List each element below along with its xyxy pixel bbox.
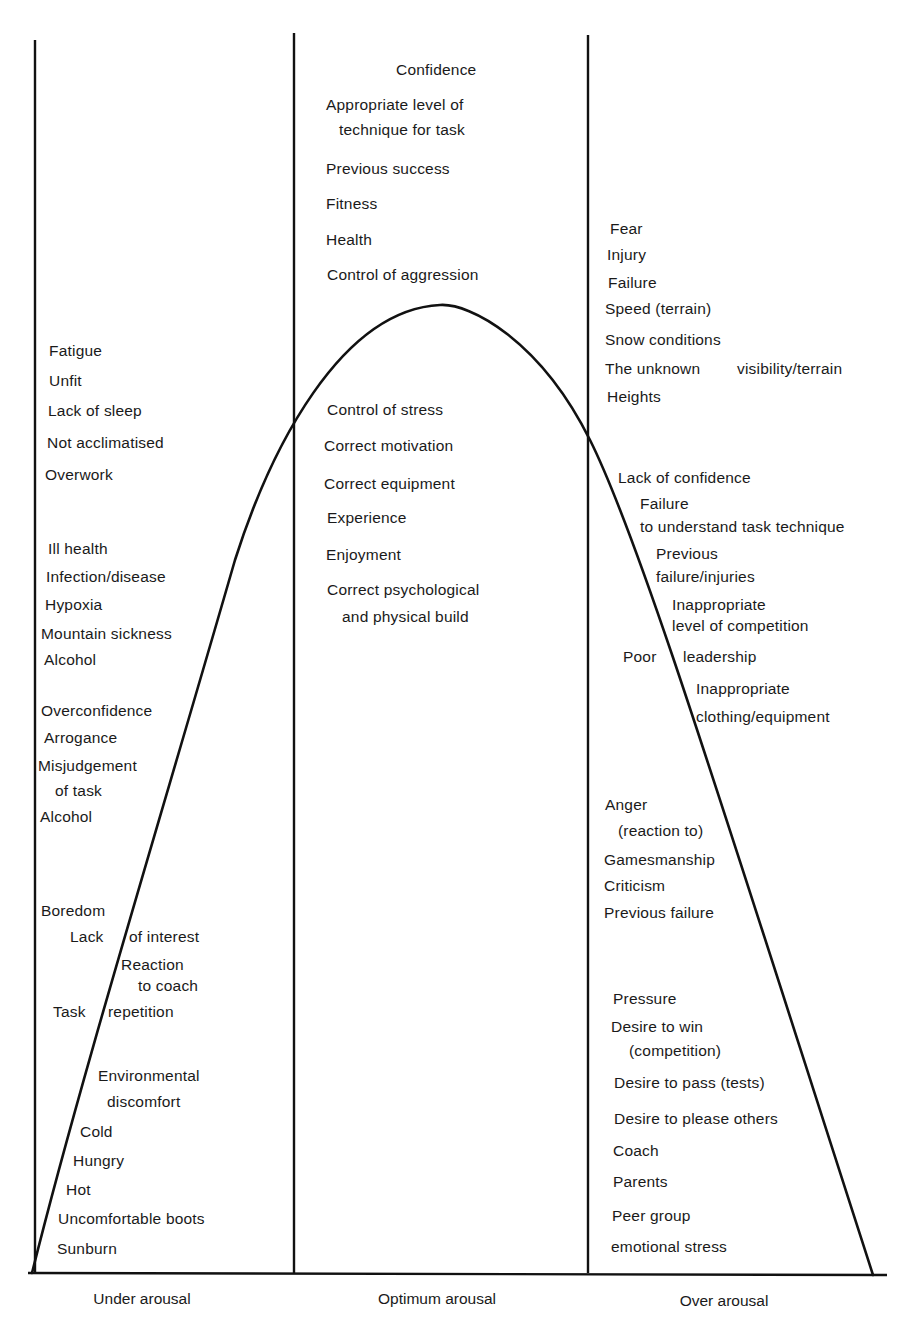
over-arousal-factor: Failure <box>640 495 689 513</box>
arousal-performance-diagram: FatigueUnfitLack of sleepNot acclimatise… <box>0 0 900 1321</box>
over-arousal-factor: Fear <box>610 220 643 238</box>
axis-label-optimum: Optimum arousal <box>378 1290 496 1308</box>
optimum-arousal-factor: Enjoyment <box>326 546 401 564</box>
over-arousal-factor: Lack of confidence <box>618 469 751 487</box>
under-arousal-factor: Arrogance <box>44 729 117 747</box>
under-arousal-factor: Boredom <box>41 902 105 920</box>
over-arousal-factor: Gamesmanship <box>604 851 715 869</box>
under-arousal-factor: Alcohol <box>40 808 92 826</box>
under-arousal-factor: Reaction <box>121 956 184 974</box>
over-arousal-factor: Inappropriate <box>696 680 790 698</box>
under-arousal-factor: discomfort <box>107 1093 181 1111</box>
under-arousal-factor: Hungry <box>73 1152 124 1170</box>
baseline-axis <box>28 1273 887 1275</box>
over-arousal-factor: Parents <box>613 1173 668 1191</box>
over-arousal-factor: Failure <box>608 274 657 292</box>
over-arousal-factor: Coach <box>613 1142 659 1160</box>
under-arousal-factor: Fatigue <box>49 342 102 360</box>
over-arousal-factor: leadership <box>683 648 757 666</box>
optimum-arousal-factor: Health <box>326 231 372 249</box>
optimum-arousal-factor: Correct motivation <box>324 437 453 455</box>
over-arousal-factor: Previous <box>656 545 718 563</box>
over-arousal-factor: Criticism <box>604 877 665 895</box>
over-arousal-factor: Previous failure <box>604 904 714 922</box>
under-arousal-factor: Misjudgement <box>38 757 137 775</box>
under-arousal-factor: Lack <box>70 928 104 946</box>
optimum-arousal-factor: technique for task <box>339 121 465 139</box>
over-arousal-factor: (reaction to) <box>618 822 703 840</box>
over-arousal-factor: Desire to win <box>611 1018 703 1036</box>
optimum-arousal-factor: Control of aggression <box>327 266 479 284</box>
under-arousal-factor: Hypoxia <box>45 596 102 614</box>
over-arousal-factor: Injury <box>607 246 646 264</box>
under-arousal-factor: Mountain sickness <box>41 625 172 643</box>
under-arousal-factor: Not acclimatised <box>47 434 164 452</box>
optimum-arousal-factor: Confidence <box>396 61 476 79</box>
over-arousal-factor: failure/injuries <box>656 568 755 586</box>
optimum-arousal-factor: Appropriate level of <box>326 96 464 114</box>
under-arousal-factor: Cold <box>80 1123 113 1141</box>
under-arousal-factor: Sunburn <box>57 1240 117 1258</box>
over-arousal-factor: to understand task technique <box>640 518 845 536</box>
over-arousal-factor: Inappropriate <box>672 596 766 614</box>
under-arousal-factor: Environmental <box>98 1067 200 1085</box>
over-arousal-factor: Pressure <box>613 990 677 1008</box>
under-arousal-factor: Lack of sleep <box>48 402 142 420</box>
over-arousal-factor: Snow conditions <box>605 331 721 349</box>
under-arousal-factor: of task <box>55 782 102 800</box>
optimum-arousal-factor: and physical build <box>342 608 469 626</box>
over-arousal-factor: Desire to pass (tests) <box>614 1074 765 1092</box>
optimum-arousal-factor: Fitness <box>326 195 377 213</box>
over-arousal-factor: clothing/equipment <box>696 708 830 726</box>
over-arousal-factor: emotional stress <box>611 1238 727 1256</box>
under-arousal-factor: Alcohol <box>44 651 96 669</box>
optimum-arousal-factor: Previous success <box>326 160 450 178</box>
over-arousal-factor: Peer group <box>612 1207 691 1225</box>
over-arousal-factor: Heights <box>607 388 661 406</box>
over-arousal-factor: Desire to please others <box>614 1110 778 1128</box>
under-arousal-factor: Ill health <box>48 540 108 558</box>
under-arousal-factor: Uncomfortable boots <box>58 1210 205 1228</box>
under-arousal-factor: Infection/disease <box>46 568 166 586</box>
over-arousal-factor: (competition) <box>629 1042 721 1060</box>
over-arousal-factor: The unknown <box>605 360 700 378</box>
optimum-arousal-factor: Correct equipment <box>324 475 455 493</box>
axis-label-over: Over arousal <box>680 1292 769 1310</box>
under-arousal-factor: to coach <box>138 977 198 995</box>
under-arousal-factor: Unfit <box>49 372 82 390</box>
under-arousal-factor: Overwork <box>45 466 113 484</box>
under-arousal-factor: Overconfidence <box>41 702 152 720</box>
optimum-arousal-factor: Control of stress <box>327 401 443 419</box>
over-arousal-factor: Anger <box>605 796 647 814</box>
optimum-arousal-factor: Correct psychological <box>327 581 479 599</box>
optimum-arousal-factor: Experience <box>327 509 407 527</box>
axis-label-under: Under arousal <box>93 1290 190 1308</box>
over-arousal-factor: Speed (terrain) <box>605 300 711 318</box>
under-arousal-factor: Task <box>53 1003 86 1021</box>
over-arousal-factor: Poor <box>623 648 657 666</box>
over-arousal-factor: level of competition <box>672 617 809 635</box>
under-arousal-factor: repetition <box>108 1003 174 1021</box>
under-arousal-factor: of interest <box>129 928 199 946</box>
under-arousal-factor: Hot <box>66 1181 91 1199</box>
over-arousal-factor: visibility/terrain <box>737 360 842 378</box>
